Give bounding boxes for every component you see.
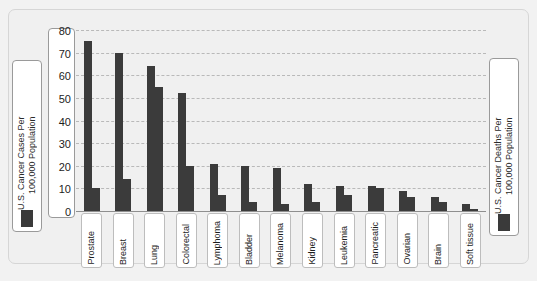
- x-axis-label: Pancreatic: [365, 213, 386, 268]
- x-axis-label-cell: Colorectal: [171, 213, 203, 271]
- x-axis-label: Breast: [113, 213, 134, 268]
- legend-cases: U.S. Cancer Cases Per 100,000 Population: [12, 60, 42, 232]
- y-axis-tick: 60: [59, 70, 71, 82]
- legend-cases-label: U.S. Cancer Cases Per 100,000 Population: [16, 65, 38, 210]
- x-axis-label: Brain: [428, 213, 449, 268]
- x-axis-label-cell: Breast: [108, 213, 140, 271]
- bar-group: [297, 30, 329, 211]
- x-axis-label: Kidney: [302, 213, 323, 268]
- x-axis-label-cell: Melanoma: [265, 213, 297, 271]
- x-axis-label: Leukemia: [334, 213, 355, 268]
- bar-cases: [147, 66, 155, 211]
- y-axis-tick: 10: [59, 183, 71, 195]
- x-axis-label-text: Lymphoma: [208, 221, 227, 265]
- bar-group: [265, 30, 297, 211]
- y-axis-tick: 20: [59, 161, 71, 173]
- x-axis-label-text: Soft tissue: [461, 223, 480, 265]
- bar-group: [234, 30, 266, 211]
- y-axis-tick: 50: [59, 93, 71, 105]
- x-axis-label-text: Leukemia: [335, 226, 354, 265]
- bar-deaths: [123, 179, 131, 211]
- x-axis-label: Bladder: [239, 213, 260, 268]
- bar-deaths: [92, 188, 100, 211]
- bar-cases: [462, 204, 470, 211]
- x-axis-labels: ProstateBreastLungColorectalLymphomaBlad…: [76, 213, 486, 271]
- x-axis-label: Melanoma: [270, 213, 291, 268]
- bar-deaths: [344, 195, 352, 211]
- bar-deaths: [155, 87, 163, 211]
- x-axis-label-cell: Prostate: [76, 213, 108, 271]
- bar-cases: [368, 186, 376, 211]
- y-axis-tick: 80: [59, 25, 71, 37]
- bar-deaths: [186, 166, 194, 211]
- x-axis-label-cell: Brain: [423, 213, 455, 271]
- x-axis-label-cell: Ovarian: [391, 213, 423, 271]
- bar-group: [108, 30, 140, 211]
- x-axis-label: Ovarian: [397, 213, 418, 268]
- bar-cases: [273, 168, 281, 211]
- bar-cases: [84, 41, 92, 211]
- bar-group: [171, 30, 203, 211]
- x-axis-label: Lymphoma: [207, 213, 228, 268]
- bar-deaths: [312, 202, 320, 211]
- x-axis-label-cell: Lymphoma: [202, 213, 234, 271]
- x-axis-label: Soft tissue: [460, 213, 481, 268]
- bar-group: [139, 30, 171, 211]
- bar-cases: [399, 191, 407, 211]
- bar-group: [76, 30, 108, 211]
- legend-deaths-label: U.S. Cancer Deaths Per 100,000 Populatio…: [493, 63, 515, 214]
- y-axis-tick: 30: [59, 138, 71, 150]
- y-axis-tick: 70: [59, 48, 71, 60]
- legend-cases-swatch: [21, 210, 33, 227]
- bar-deaths: [407, 197, 415, 211]
- x-axis-label-cell: Pancreatic: [360, 213, 392, 271]
- bar-cases: [241, 166, 249, 211]
- bar-deaths: [439, 202, 447, 211]
- x-axis-label-text: Ovarian: [398, 233, 417, 265]
- bar-group: [454, 30, 486, 211]
- x-axis-label-text: Bladder: [240, 234, 259, 265]
- bar-deaths: [249, 202, 257, 211]
- bar-cases: [304, 184, 312, 211]
- bar-cases: [431, 197, 439, 211]
- y-axis-tick: 40: [59, 116, 71, 128]
- x-axis-label-cell: Soft tissue: [454, 213, 486, 271]
- x-axis-label-cell: Leukemia: [328, 213, 360, 271]
- x-axis-label-text: Prostate: [82, 231, 101, 265]
- bar-group: [360, 30, 392, 211]
- x-axis-label: Prostate: [81, 213, 102, 268]
- x-axis-label-cell: Bladder: [234, 213, 266, 271]
- x-axis-label-text: Lung: [145, 245, 164, 265]
- legend-deaths-swatch: [498, 214, 510, 231]
- legend-deaths: U.S. Cancer Deaths Per 100,000 Populatio…: [489, 58, 519, 236]
- bar-cases: [336, 186, 344, 211]
- bar-group: [202, 30, 234, 211]
- x-axis-label-text: Melanoma: [271, 223, 290, 265]
- bar-deaths: [281, 204, 289, 211]
- x-axis-baseline: [76, 211, 486, 212]
- bar-cases: [178, 93, 186, 211]
- bar-cases: [115, 53, 123, 211]
- x-axis-label-text: Kidney: [303, 237, 322, 265]
- x-axis-label: Lung: [144, 213, 165, 268]
- bar-deaths: [376, 188, 384, 211]
- x-axis-label-cell: Lung: [139, 213, 171, 271]
- x-axis-label-text: Pancreatic: [366, 222, 385, 265]
- bar-group: [328, 30, 360, 211]
- x-axis-label: Colorectal: [176, 213, 197, 268]
- x-axis-label-text: Brain: [429, 244, 448, 265]
- y-axis-tick: 0: [65, 206, 71, 218]
- bar-group: [423, 30, 455, 211]
- bar-cases: [210, 164, 218, 212]
- bar-groups: [76, 30, 486, 211]
- x-axis-label-cell: Kidney: [297, 213, 329, 271]
- bar-deaths: [218, 195, 226, 211]
- x-axis-label-text: Breast: [114, 239, 133, 265]
- bar-group: [391, 30, 423, 211]
- chart-figure: U.S. Cancer Cases Per 100,000 Population…: [0, 0, 537, 281]
- y-axis: 80706050403020100: [48, 28, 75, 218]
- x-axis-label-text: Colorectal: [177, 224, 196, 265]
- plot-area: [76, 30, 486, 211]
